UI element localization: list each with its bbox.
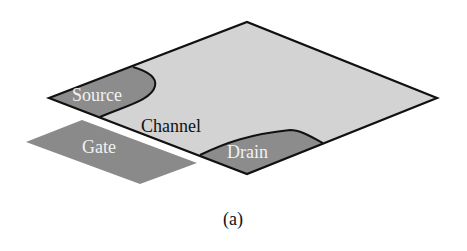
source-label: Source bbox=[72, 85, 122, 105]
gate-label: Gate bbox=[82, 137, 116, 157]
drain-label: Drain bbox=[227, 142, 268, 162]
transistor-diagram: Source Channel Drain Gate (a) bbox=[0, 0, 467, 251]
figure-caption: (a) bbox=[223, 209, 243, 230]
channel-label: Channel bbox=[141, 116, 201, 136]
